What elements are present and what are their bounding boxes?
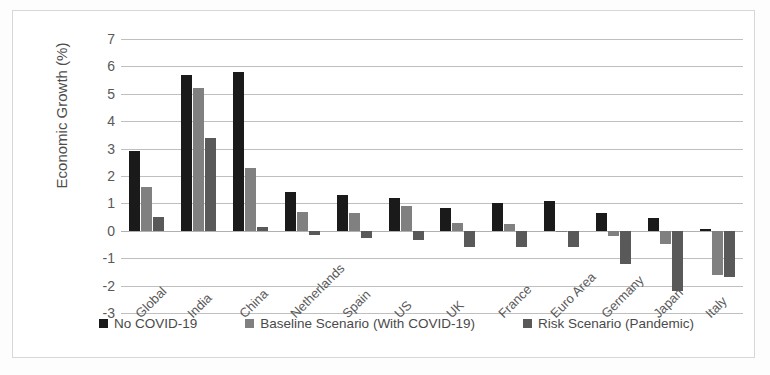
bar-group xyxy=(639,39,691,313)
bar xyxy=(141,187,152,231)
bar xyxy=(596,213,607,231)
plot-area xyxy=(121,39,743,313)
bar-group xyxy=(588,39,640,313)
bar xyxy=(712,231,723,275)
bar xyxy=(516,231,527,247)
legend-item[interactable]: No COVID-19 xyxy=(99,316,197,331)
bar xyxy=(492,203,503,230)
y-axis-tick: 4 xyxy=(89,114,115,128)
bar xyxy=(285,192,296,230)
economic-growth-bar-chart: Economic Growth (%) 76543210-1-2-3 Globa… xyxy=(0,0,770,375)
y-axis-tick: 1 xyxy=(89,196,115,210)
bar xyxy=(620,231,631,264)
bar-group xyxy=(173,39,225,313)
bar-group xyxy=(277,39,329,313)
bar xyxy=(556,231,567,232)
bar-group xyxy=(484,39,536,313)
bar xyxy=(440,208,451,231)
bar-group xyxy=(432,39,484,313)
bar xyxy=(504,224,515,231)
y-axis-tick-labels: 76543210-1-2-3 xyxy=(87,39,115,313)
bar xyxy=(464,231,475,247)
bar xyxy=(648,218,659,230)
bars-layer xyxy=(121,39,743,313)
bar xyxy=(129,151,140,230)
bar-group xyxy=(691,39,743,313)
bar xyxy=(337,195,348,231)
chart-legend: No COVID-19Baseline Scenario (With COVID… xyxy=(25,316,768,331)
bar xyxy=(361,231,372,238)
bar xyxy=(660,231,671,245)
bar xyxy=(568,231,579,247)
y-axis-title: Economic Growth (%) xyxy=(53,16,70,216)
bar xyxy=(233,72,244,231)
y-axis-tick: 6 xyxy=(89,59,115,73)
bar xyxy=(181,75,192,231)
bar xyxy=(452,223,463,231)
bar xyxy=(297,212,308,231)
bar-group xyxy=(121,39,173,313)
bar xyxy=(205,138,216,231)
bar xyxy=(700,229,711,230)
bar xyxy=(544,201,555,231)
bar-group xyxy=(225,39,277,313)
bar-group xyxy=(380,39,432,313)
y-axis-tick: 2 xyxy=(89,169,115,183)
bar xyxy=(153,217,164,231)
bar xyxy=(724,231,735,278)
bar xyxy=(672,231,683,291)
legend-item-label: Risk Scenario (Pandemic) xyxy=(538,316,694,331)
legend-item-label: Baseline Scenario (With COVID-19) xyxy=(260,316,475,331)
bar xyxy=(257,227,268,231)
chart-frame: Economic Growth (%) 76543210-1-2-3 Globa… xyxy=(12,10,755,358)
bar xyxy=(193,88,204,230)
y-axis-tick: -1 xyxy=(89,251,115,265)
legend-swatch-icon xyxy=(523,319,532,328)
bar-group xyxy=(536,39,588,313)
y-axis-tick: 3 xyxy=(89,142,115,156)
y-axis-tick: 5 xyxy=(89,87,115,101)
bar xyxy=(608,231,619,236)
bar xyxy=(401,206,412,231)
y-axis-tick: -2 xyxy=(89,279,115,293)
bar xyxy=(349,213,360,231)
y-axis-tick: 0 xyxy=(89,224,115,238)
bar xyxy=(413,231,424,241)
bar xyxy=(245,168,256,231)
bar xyxy=(389,198,400,231)
bar xyxy=(309,231,320,235)
legend-item-label: No COVID-19 xyxy=(114,316,197,331)
legend-item[interactable]: Baseline Scenario (With COVID-19) xyxy=(245,316,475,331)
legend-swatch-icon xyxy=(99,319,108,328)
y-axis-tick: 7 xyxy=(89,32,115,46)
legend-item[interactable]: Risk Scenario (Pandemic) xyxy=(523,316,694,331)
legend-swatch-icon xyxy=(245,319,254,328)
